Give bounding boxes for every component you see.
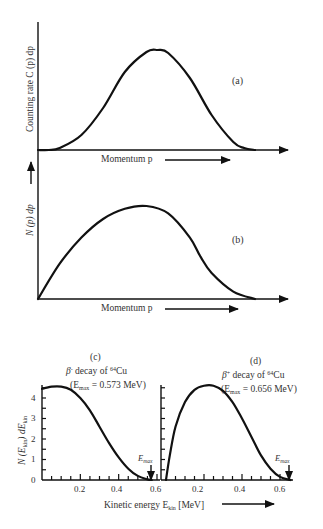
panel-d-emax-label: Emax xyxy=(274,453,290,464)
panel-c-subtitle: (Emax = 0.573 MeV) xyxy=(70,380,146,391)
panel-a-ylabel: Counting rate C (p) dp xyxy=(25,46,36,132)
panel-d-subtitle: (Emax = 0.656 MeV) xyxy=(221,384,297,395)
d-xtick-0.6: 0.6 xyxy=(274,484,286,494)
panel-b-curve xyxy=(38,206,255,299)
panel-c-xtick-labels: 0.2 0.4 0.6 xyxy=(74,484,162,494)
panel-c-ticks xyxy=(42,388,157,480)
panel-b: (b) N (p) dp Momentum p xyxy=(25,150,288,313)
panel-a-label: (a) xyxy=(232,75,243,87)
panel-a: (a) Counting rate C (p) dp Momentum p xyxy=(25,22,288,184)
energy-ylabel: N (Ekin) dEkin xyxy=(17,416,28,466)
panel-d-curve xyxy=(166,385,291,480)
panel-c-title: β- decay of 64Cu xyxy=(65,366,127,376)
panel-c-label: (c) xyxy=(90,352,101,363)
panel-a-curve xyxy=(38,50,255,151)
d-xtick-0.4: 0.4 xyxy=(234,484,246,494)
energy-xlabel: Kinetic energy Ekin [MeV] xyxy=(104,500,204,511)
panel-c-ytick-labels: 0 1 2 3 4 xyxy=(31,393,36,485)
c-xtick-0.4: 0.4 xyxy=(111,484,123,494)
panel-a-xlabel: Momentum p xyxy=(101,154,153,164)
panel-b-ylabel: N (p) dp xyxy=(25,204,36,237)
ytick-3: 3 xyxy=(31,413,36,423)
panel-d: Emax 0.2 0.4 0.6 xyxy=(161,385,293,494)
panel-c-heading: (c) β- decay of 64Cu (Emax = 0.573 MeV) xyxy=(65,352,146,391)
panel-d-label: (d) xyxy=(250,356,261,367)
panel-d-heading: (d) β+ decay of 64Cu (Emax = 0.656 MeV) xyxy=(221,356,297,395)
c-xtick-0.2: 0.2 xyxy=(74,484,85,494)
panel-b-label: (b) xyxy=(232,234,244,246)
panel-d-title: β+ decay of 64Cu xyxy=(221,370,285,380)
panel-c-curve xyxy=(42,386,152,480)
ytick-0: 0 xyxy=(31,475,36,485)
energy-xlabel-group: Kinetic energy Ekin [MeV] xyxy=(104,500,274,511)
ytick-4: 4 xyxy=(31,393,36,403)
ytick-1: 1 xyxy=(31,454,36,464)
panel-d-ticks xyxy=(161,388,290,480)
panel-d-xtick-labels: 0.2 0.4 0.6 xyxy=(192,484,286,494)
c-xtick-0.6: 0.6 xyxy=(150,484,162,494)
panel-b-xlabel: Momentum p xyxy=(101,303,153,313)
figure: (a) Counting rate C (p) dp Momentum p (b… xyxy=(0,0,323,529)
panel-c: Emax 0 1 2 3 4 0.2 0.4 0.6 N (Ekin) dEki… xyxy=(17,385,162,494)
panel-c-emax-label: Emax xyxy=(137,453,153,464)
ytick-2: 2 xyxy=(31,434,36,444)
d-xtick-0.2: 0.2 xyxy=(192,484,203,494)
